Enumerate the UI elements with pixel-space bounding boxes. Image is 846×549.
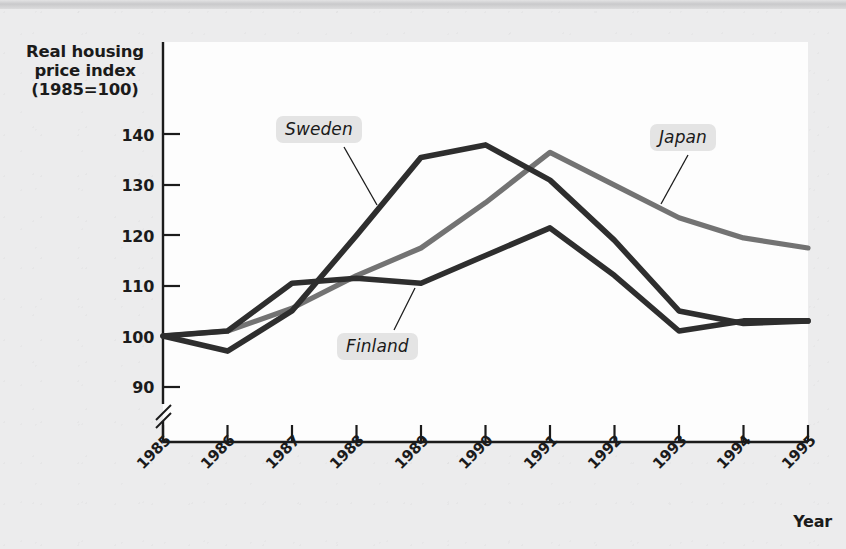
callout-leader-lines xyxy=(344,147,688,330)
leader-line-sweden xyxy=(344,147,377,205)
y-axis-break-slash-1 xyxy=(156,405,171,420)
leader-line-japan xyxy=(661,155,688,204)
axes-group xyxy=(156,42,808,442)
figure-page: Real housing price index (1985=100) 140 … xyxy=(0,0,846,549)
chart-canvas xyxy=(0,0,846,549)
leader-line-finland xyxy=(394,288,415,330)
series-group xyxy=(163,145,808,351)
